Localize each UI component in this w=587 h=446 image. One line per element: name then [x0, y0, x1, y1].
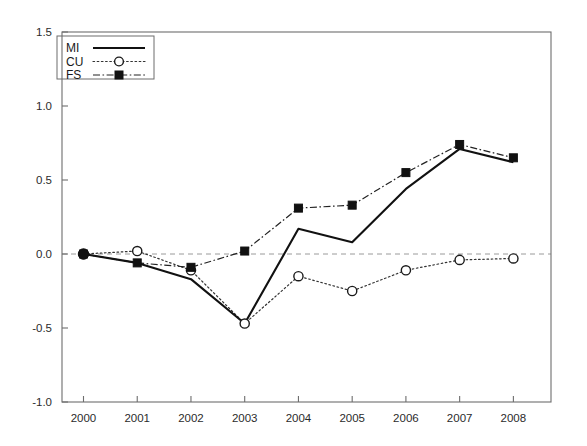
x-tick-label: 2008	[501, 412, 527, 424]
series-line-mi	[83, 149, 513, 324]
x-tick-label: 2007	[447, 412, 473, 424]
y-tick-label: -0.5	[32, 322, 52, 334]
x-tick-label: 2003	[232, 412, 258, 424]
x-tick-label: 2006	[393, 412, 419, 424]
y-tick-label: 0.0	[36, 248, 52, 260]
chart-canvas: 1.51.00.50.0-0.5-1.0 2000200120022003200…	[0, 0, 587, 446]
x-axis-tick-labels: 200020012002200320042005200620072008	[71, 412, 526, 424]
data-point-marker-cu	[509, 254, 518, 263]
data-point-marker-cu	[133, 246, 142, 255]
data-point-marker-cu	[455, 255, 464, 264]
legend-sample-marker-fs	[115, 71, 123, 79]
data-point-marker-fs	[456, 140, 464, 148]
line-chart: 1.51.00.50.0-0.5-1.0 2000200120022003200…	[0, 0, 587, 446]
x-tick-label: 2004	[286, 412, 312, 424]
series-line-cu	[83, 251, 513, 324]
legend-label-cu: CU	[66, 55, 83, 69]
data-point-marker-cu	[348, 286, 357, 295]
plot-frame	[62, 32, 551, 402]
x-tick-label: 2005	[339, 412, 365, 424]
data-point-marker-cu	[401, 266, 410, 275]
chart-legend: MICUFS	[57, 36, 154, 82]
x-tick-label: 2001	[124, 412, 150, 424]
data-point-marker-fs	[509, 154, 517, 162]
x-tick-label: 2000	[71, 412, 97, 424]
data-point-marker-fs	[348, 201, 356, 209]
y-tick-label: 0.5	[36, 174, 52, 186]
data-point-marker-fs	[133, 259, 141, 267]
data-point-marker-cu	[294, 272, 303, 281]
legend-label-fs: FS	[66, 68, 81, 82]
data-point-marker-fs	[294, 204, 302, 212]
chart-axes	[62, 32, 551, 402]
data-point-marker-fs	[187, 263, 195, 271]
chart-series	[78, 140, 518, 328]
legend-sample-marker-cu	[115, 57, 124, 66]
y-axis-tick-labels: 1.51.00.50.0-0.5-1.0	[32, 26, 52, 408]
data-point-marker-fs	[402, 169, 410, 177]
y-tick-label: 1.5	[36, 26, 52, 38]
y-tick-label: -1.0	[32, 396, 52, 408]
y-tick-label: 1.0	[36, 100, 52, 112]
data-point-marker-cu	[240, 319, 249, 328]
legend-label-mi: MI	[66, 41, 79, 55]
x-tick-label: 2002	[178, 412, 204, 424]
data-point-marker-fs	[241, 247, 249, 255]
origin-convergence-marker	[78, 249, 88, 259]
